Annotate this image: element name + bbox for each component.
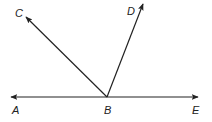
ray-BD (107, 4, 143, 97)
label-D: D (127, 5, 135, 17)
label-A: A (11, 104, 19, 116)
angle-diagram: C D A B E (0, 0, 212, 122)
ray-BC (26, 17, 107, 97)
label-B: B (104, 104, 111, 116)
label-C: C (15, 7, 23, 19)
label-E: E (192, 104, 200, 116)
